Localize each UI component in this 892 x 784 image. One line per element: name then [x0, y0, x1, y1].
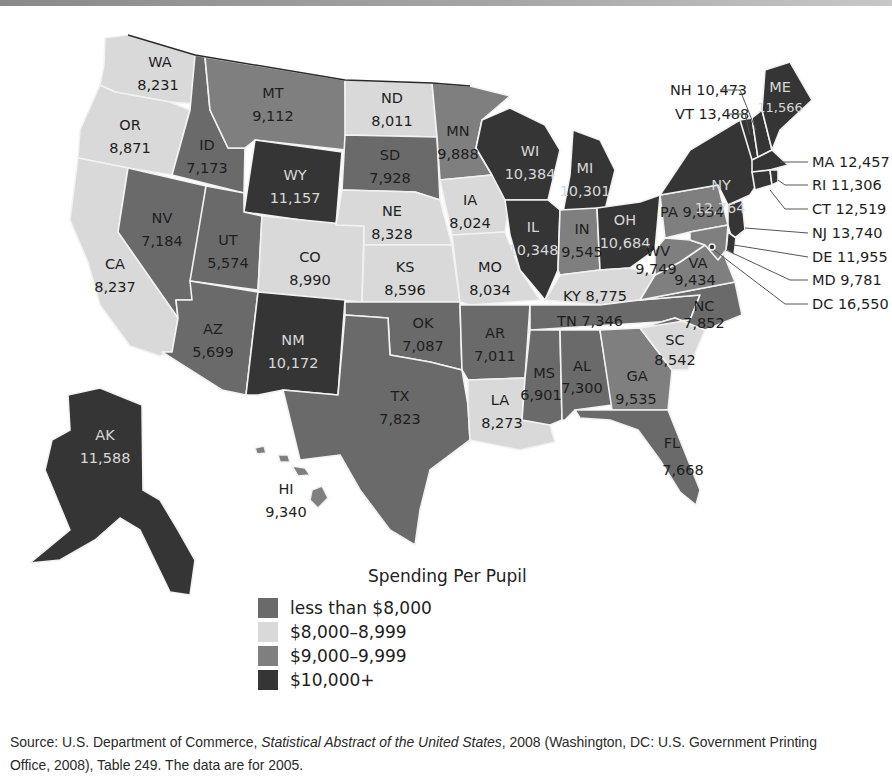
svg-text:ID: ID	[199, 137, 214, 153]
callout-DE: DE 11,955	[812, 249, 888, 265]
svg-text:6,901: 6,901	[520, 387, 562, 403]
svg-text:10,684: 10,684	[600, 235, 651, 251]
svg-text:9,888: 9,888	[437, 146, 479, 162]
svg-text:8,328: 8,328	[371, 226, 413, 242]
svg-text:7,668: 7,668	[662, 462, 704, 478]
svg-text:CA: CA	[105, 256, 125, 272]
svg-text:CO: CO	[299, 249, 321, 265]
svg-text:OR: OR	[119, 117, 141, 133]
svg-text:11,157: 11,157	[270, 190, 321, 206]
svg-text:8,273: 8,273	[481, 415, 523, 431]
svg-text:MS: MS	[533, 365, 555, 381]
callout-NJ: NJ 13,740	[812, 225, 882, 241]
state-CT[interactable]	[752, 170, 772, 190]
state-FL[interactable]	[575, 410, 700, 505]
legend-swatch	[258, 622, 278, 642]
svg-text:8,034: 8,034	[469, 282, 511, 298]
svg-text:NE: NE	[382, 203, 402, 219]
svg-text:FL: FL	[664, 435, 680, 451]
svg-text:7,852: 7,852	[683, 315, 725, 331]
svg-text:MT: MT	[262, 85, 284, 101]
svg-text:7,011: 7,011	[474, 348, 516, 364]
svg-text:WY: WY	[283, 167, 306, 183]
svg-text:UT: UT	[218, 232, 238, 248]
svg-text:ME: ME	[769, 79, 791, 95]
svg-text:IA: IA	[463, 192, 477, 208]
state-HI-big[interactable]	[310, 486, 328, 508]
svg-text:WV: WV	[646, 243, 670, 259]
svg-text:GA: GA	[626, 368, 647, 384]
svg-text:IN: IN	[574, 221, 589, 237]
svg-text:8,011: 8,011	[371, 113, 413, 129]
svg-text:OH: OH	[614, 212, 636, 228]
legend-title: Spending Per Pupil	[368, 566, 527, 586]
legend-swatch	[258, 598, 278, 618]
state-RI[interactable]	[770, 170, 778, 185]
svg-text:MO: MO	[478, 259, 502, 275]
svg-text:HI: HI	[278, 481, 293, 497]
callout-MA: MA 12,457	[812, 154, 890, 170]
callout-DC: DC 16,550	[812, 296, 889, 312]
legend-item-lt8000: less than $8,000	[258, 598, 432, 618]
svg-text:8,990: 8,990	[289, 272, 331, 288]
svg-text:8,871: 8,871	[109, 140, 151, 156]
label-WA-value: 8,231	[137, 77, 179, 93]
svg-text:MI: MI	[577, 160, 594, 176]
svg-text:8,237: 8,237	[94, 279, 136, 295]
state-IN[interactable]	[558, 208, 600, 275]
us-choropleth-map: WA 8,231 OR 8,871 CA 8,237 ID 7,173 NV 7…	[0, 0, 892, 720]
svg-text:TX: TX	[390, 388, 410, 404]
state-HI-maui[interactable]	[292, 466, 310, 476]
state-DC[interactable]	[709, 244, 715, 250]
svg-text:9,545: 9,545	[561, 244, 603, 260]
svg-text:7,300: 7,300	[561, 380, 603, 396]
svg-text:AR: AR	[485, 325, 505, 341]
svg-text:VA: VA	[689, 255, 708, 271]
svg-text:IL: IL	[527, 219, 539, 235]
svg-text:ND: ND	[381, 90, 403, 106]
svg-text:8,542: 8,542	[654, 352, 696, 368]
svg-text:8,024: 8,024	[449, 215, 491, 231]
svg-text:11,566: 11,566	[757, 100, 803, 115]
svg-text:KY 8,775: KY 8,775	[563, 288, 627, 304]
svg-text:10,301: 10,301	[560, 183, 611, 199]
svg-text:9,535: 9,535	[615, 391, 657, 407]
svg-text:10,384: 10,384	[505, 166, 556, 182]
svg-text:10,348: 10,348	[508, 242, 559, 258]
svg-text:7,823: 7,823	[379, 411, 421, 427]
callout-MD: MD 9,781	[812, 272, 882, 288]
svg-text:12,764: 12,764	[695, 200, 746, 216]
svg-text:9,749: 9,749	[635, 261, 677, 277]
svg-text:8,596: 8,596	[384, 282, 426, 298]
svg-text:NC: NC	[694, 298, 715, 314]
label-WA-code: WA	[148, 54, 172, 70]
state-MT[interactable]	[205, 57, 346, 150]
svg-text:KS: KS	[396, 259, 415, 275]
legend-item-8000-8999: $8,000–8,999	[258, 622, 407, 642]
legend-item-10000plus: $10,000+	[258, 670, 375, 690]
svg-text:5,699: 5,699	[192, 344, 234, 360]
svg-text:7,173: 7,173	[186, 160, 228, 176]
svg-text:11,588: 11,588	[80, 450, 131, 466]
svg-text:SD: SD	[380, 147, 400, 163]
source-note: Source: U.S. Department of Commerce, Sta…	[10, 730, 828, 776]
svg-text:LA: LA	[491, 392, 509, 408]
svg-text:NY: NY	[711, 177, 731, 193]
legend-swatch	[258, 670, 278, 690]
legend-swatch	[258, 646, 278, 666]
legend-item-9000-9999: $9,000–9,999	[258, 646, 407, 666]
state-HI-oahu[interactable]	[278, 455, 290, 462]
callout-CT: CT 12,519	[812, 201, 886, 217]
svg-text:SC: SC	[665, 332, 684, 348]
svg-text:7,928: 7,928	[369, 170, 411, 186]
state-HI-kauai[interactable]	[255, 446, 266, 454]
svg-text:AK: AK	[95, 427, 115, 443]
svg-text:AZ: AZ	[203, 321, 223, 337]
svg-text:WI: WI	[521, 143, 540, 159]
svg-text:NV: NV	[152, 210, 173, 226]
state-AK[interactable]	[30, 388, 195, 595]
svg-text:7,184: 7,184	[141, 233, 183, 249]
callout-RI: RI 11,306	[812, 177, 882, 193]
state-AR[interactable]	[460, 305, 530, 380]
svg-text:MN: MN	[446, 123, 469, 139]
